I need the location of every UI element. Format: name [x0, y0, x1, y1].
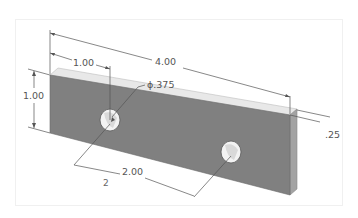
- arrowhead: [285, 94, 290, 97]
- thickness-line-bottom: [297, 110, 330, 117]
- dim-hole-offset-label: 1.00: [73, 57, 94, 68]
- arrowhead: [32, 123, 36, 128]
- dim-overall-length-label: 4.00: [155, 56, 176, 67]
- arrowhead: [50, 33, 55, 36]
- spacing-line-a: [74, 165, 120, 174]
- arrowhead: [32, 71, 36, 76]
- isometric-drawing: 4.00 1.00 1.00 ϕ.375 .25 2.00 2: [0, 0, 358, 218]
- dim-hole-diameter-label: ϕ.375: [147, 79, 174, 90]
- note-label: 2: [103, 178, 109, 188]
- dim-4-line-a: [50, 33, 152, 60]
- hole-2: [221, 141, 241, 163]
- dim-hole-spacing-label: 2.00: [122, 166, 143, 177]
- arrowhead: [50, 53, 55, 56]
- dim-height-label: 1.00: [23, 90, 44, 101]
- spacing-line-b: [145, 178, 194, 196]
- plate-side-face: [290, 109, 297, 195]
- dim-thickness-label: .25: [325, 129, 340, 140]
- dim-height-ext-bottom: [28, 127, 50, 133]
- arrowhead: [105, 66, 110, 69]
- dim-height-ext-top: [28, 69, 50, 75]
